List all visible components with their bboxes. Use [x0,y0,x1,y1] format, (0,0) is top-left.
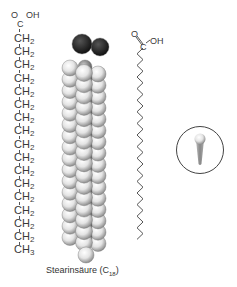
skeletal-carbon: C [140,42,147,52]
caption-close: ) [116,265,119,275]
caption-subscript: 18 [109,271,116,277]
molecule-symbol-icon [176,126,224,174]
caption: Stearinsäure (C18) [46,265,119,277]
skeletal-oxygen: O [131,29,138,39]
skeletal-hydroxyl: OH [150,36,164,46]
caption-name: Stearinsäure (C [46,265,109,275]
